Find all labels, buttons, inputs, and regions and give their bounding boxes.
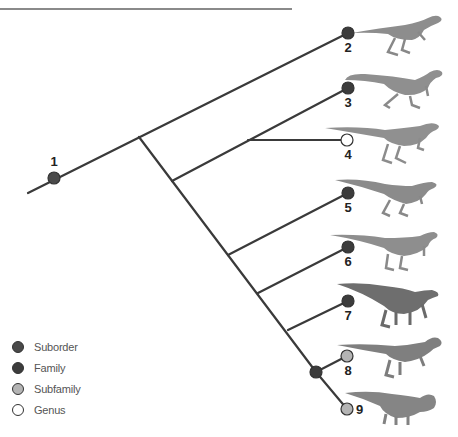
family-dot-icon xyxy=(12,362,24,374)
node-label-5: 5 xyxy=(344,200,351,215)
node-2-family xyxy=(342,27,354,39)
legend-label: Subfamily xyxy=(34,383,81,395)
node-label-4: 4 xyxy=(344,147,352,162)
legend-item-genus: Genus xyxy=(12,399,81,420)
legend: Suborder Family Subfamily Genus xyxy=(12,336,81,420)
dinosaur-3-icon xyxy=(345,70,442,108)
node-label-8: 8 xyxy=(344,363,351,378)
legend-item-subfamily: Subfamily xyxy=(12,378,81,399)
branch-to-9 xyxy=(316,372,347,409)
node-3-family xyxy=(342,82,354,94)
node-label-3: 3 xyxy=(344,95,351,110)
branch-to-5 xyxy=(228,193,348,255)
node-5-family xyxy=(342,187,354,199)
node-6-family xyxy=(342,241,354,253)
node-9-subfamily xyxy=(341,403,353,415)
node-4-genus xyxy=(341,134,353,146)
node-8-9-family-join xyxy=(310,366,322,378)
node-7-family xyxy=(342,295,354,307)
branch-to-6 xyxy=(258,247,348,293)
node-1-suborder xyxy=(48,172,60,184)
branch-to-7 xyxy=(288,301,348,330)
node-8-subfamily xyxy=(341,350,353,362)
node-label-7: 7 xyxy=(344,308,351,323)
dinosaur-2-icon xyxy=(352,16,442,55)
legend-item-family: Family xyxy=(12,357,81,378)
node-label-1: 1 xyxy=(50,154,57,169)
genus-dot-icon xyxy=(12,404,24,416)
branch-to-3 xyxy=(172,88,348,181)
legend-label: Genus xyxy=(34,404,65,416)
node-label-9: 9 xyxy=(356,402,363,417)
node-label-2: 2 xyxy=(344,40,351,55)
node-label-6: 6 xyxy=(344,254,351,269)
dinosaur-illustrations xyxy=(325,16,442,425)
legend-label: Suborder xyxy=(34,341,78,353)
subfamily-dot-icon xyxy=(12,383,24,395)
legend-item-suborder: Suborder xyxy=(12,336,81,357)
legend-label: Family xyxy=(34,362,65,374)
suborder-dot-icon xyxy=(12,341,24,353)
